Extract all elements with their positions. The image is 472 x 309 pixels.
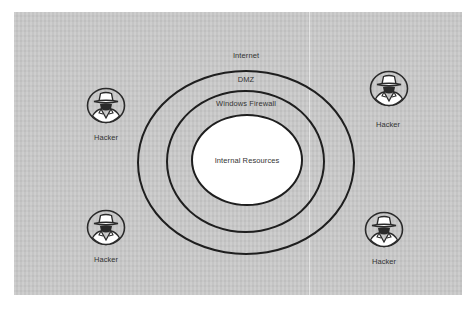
hacker-icon bbox=[86, 209, 126, 246]
zone-label-internal-resources: Internal Resources bbox=[215, 156, 280, 165]
hacker-label: Hacker bbox=[372, 257, 396, 266]
network-defense-diagram: Internet DMZ Windows Firewall Internal R… bbox=[14, 12, 462, 295]
hacker-icon bbox=[364, 211, 404, 248]
hacker-icon bbox=[86, 87, 126, 124]
hacker-label: Hacker bbox=[94, 255, 118, 264]
zone-label-dmz: DMZ bbox=[238, 75, 255, 84]
hacker-label: Hacker bbox=[94, 133, 118, 142]
zone-label-windows-firewall: Windows Firewall bbox=[216, 99, 276, 108]
zone-label-internet: Internet bbox=[233, 51, 259, 60]
hacker-icon bbox=[369, 70, 409, 107]
hacker-label: Hacker bbox=[376, 120, 400, 129]
